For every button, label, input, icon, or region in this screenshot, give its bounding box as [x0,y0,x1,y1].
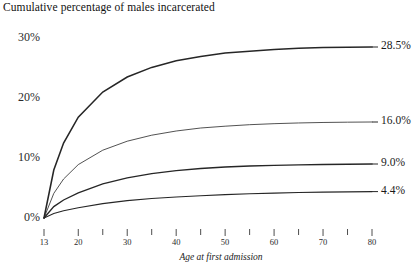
x-tick-label: 70 [313,237,333,247]
x-tick-label: 13 [34,237,54,247]
x-axis-title: Age at first admission [14,252,414,262]
series-curve [44,192,372,218]
leader-lines-group [372,47,378,192]
x-tick-label: 40 [166,237,186,247]
series-end-label: 9.0% [381,156,405,168]
chart-plot-area [0,0,414,273]
series-curve [44,164,372,218]
series-end-label: 28.5% [381,39,411,51]
x-axis-tickmarks [44,229,372,236]
curves-group [44,47,372,218]
x-tick-label: 30 [117,237,137,247]
y-tick-label: 0% [4,210,40,225]
series-end-label: 16.0% [381,114,411,126]
series-curve [44,122,372,218]
y-tick-label: 20% [4,90,40,105]
y-tick-label: 30% [4,30,40,45]
chart-container: Cumulative percentage of males incarcera… [0,0,414,273]
series-end-label: 4.4% [381,184,405,196]
x-tick-label: 50 [215,237,235,247]
x-tick-label: 60 [264,237,284,247]
y-tick-label: 10% [4,150,40,165]
x-tick-label: 80 [362,237,382,247]
x-tick-label: 20 [68,237,88,247]
